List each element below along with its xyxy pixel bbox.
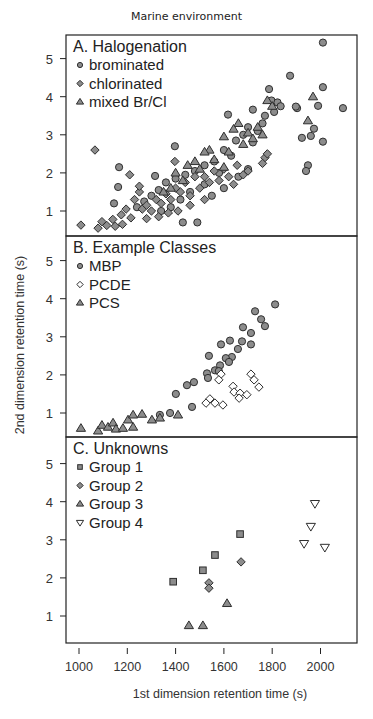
data-point — [339, 105, 346, 112]
data-point — [184, 621, 193, 629]
data-point — [130, 195, 138, 203]
data-points — [76, 301, 278, 434]
legend: B. Example ClassesMBPPCDEPCS — [73, 239, 216, 311]
data-point — [224, 111, 231, 118]
scatter-figure: 12345A. Halogenationbrominatedchlorinate… — [0, 0, 373, 719]
legend: A. Halogenationbrominatedchlorinatedmixe… — [73, 38, 187, 110]
data-point — [147, 415, 156, 423]
data-point — [200, 567, 207, 574]
data-point — [225, 358, 232, 365]
legend-label: PCS — [89, 294, 120, 311]
y-tick-label: 1 — [46, 609, 53, 624]
data-point — [171, 143, 178, 150]
y-tick-label: 5 — [46, 457, 53, 472]
y-tick-label: 2 — [46, 368, 53, 383]
panel-title: C. Unknowns — [73, 440, 168, 457]
data-point — [306, 523, 315, 531]
y-axis-label: 2nd dimension retention time (s) — [13, 256, 27, 435]
y-tick-label: 1 — [46, 204, 53, 219]
data-point — [239, 324, 246, 331]
data-point — [292, 103, 299, 110]
data-point — [320, 544, 329, 552]
data-point — [307, 132, 314, 139]
panel-c: 12345C. UnknownsGroup 1Group 2Group 3Gro… — [46, 437, 357, 643]
x-axis: 100012001400160018002000 — [65, 648, 334, 674]
y-tick-label: 4 — [46, 292, 53, 307]
data-point — [310, 125, 317, 132]
data-point — [126, 171, 134, 179]
data-point — [171, 157, 179, 165]
legend-marker-icon — [76, 520, 83, 526]
y-tick-label: 2 — [46, 571, 53, 586]
data-point — [91, 146, 99, 154]
data-point — [238, 338, 245, 345]
data-point — [110, 200, 117, 207]
data-point — [200, 195, 208, 203]
data-point — [190, 379, 197, 386]
data-point — [151, 172, 158, 179]
data-point — [222, 599, 231, 607]
data-point — [118, 424, 127, 432]
data-point — [219, 401, 227, 409]
data-point — [247, 329, 254, 336]
y-tick-label: 5 — [46, 52, 53, 67]
data-point — [226, 337, 233, 344]
panel-b: 12345B. Example ClassesMBPPCDEPCS — [46, 236, 357, 437]
data-point — [219, 163, 228, 171]
data-point — [205, 352, 212, 359]
data-point — [255, 383, 263, 391]
data-point — [215, 176, 223, 184]
legend-marker-icon — [76, 98, 83, 104]
data-point — [172, 390, 179, 397]
legend-marker-icon — [77, 263, 82, 268]
y-tick-label: 5 — [46, 254, 53, 269]
data-point — [204, 374, 211, 381]
legend-label: PCDE — [89, 276, 131, 293]
y-tick-label: 2 — [46, 166, 53, 181]
legend-marker-icon — [76, 299, 83, 305]
data-point — [217, 341, 224, 348]
legend-marker-icon — [78, 465, 83, 470]
legend-marker-icon — [77, 80, 83, 86]
legend: C. UnknownsGroup 1Group 2Group 3Group 4 — [73, 440, 168, 531]
legend-marker-icon — [76, 500, 83, 506]
data-point — [265, 85, 272, 92]
data-point — [219, 132, 228, 140]
data-point — [319, 138, 326, 145]
data-point — [177, 196, 184, 203]
data-point — [128, 410, 137, 418]
x-tick-label: 1600 — [210, 660, 238, 674]
data-point — [198, 621, 207, 629]
data-point — [162, 179, 169, 186]
data-point — [76, 424, 85, 432]
legend-label: MBP — [89, 257, 122, 274]
data-point — [249, 106, 256, 113]
data-point — [229, 180, 237, 188]
data-point — [298, 134, 305, 141]
data-point — [194, 219, 201, 226]
data-point — [127, 214, 135, 222]
y-tick-label: 4 — [46, 495, 53, 510]
data-point — [319, 84, 326, 91]
data-point — [142, 214, 150, 222]
data-point — [210, 155, 219, 163]
legend-label: brominated — [89, 56, 164, 73]
data-point — [237, 558, 245, 566]
legend-label: Group 1 — [89, 458, 143, 475]
data-point — [247, 341, 254, 348]
data-point — [179, 219, 186, 226]
panel-title: A. Halogenation — [73, 38, 187, 55]
y-tick-label: 3 — [46, 128, 53, 143]
legend-label: Group 3 — [89, 495, 143, 512]
data-point — [302, 167, 309, 174]
data-point — [314, 102, 321, 109]
data-point — [232, 137, 239, 144]
data-point — [166, 409, 173, 416]
data-point — [277, 103, 284, 110]
data-point — [183, 382, 190, 389]
data-point — [173, 410, 182, 418]
data-point — [225, 173, 233, 181]
x-tick-label: 1000 — [65, 660, 93, 674]
data-point — [118, 220, 126, 228]
data-point — [115, 164, 122, 171]
